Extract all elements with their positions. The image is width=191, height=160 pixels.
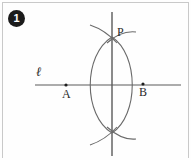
geometry-construction-figure: 1 ℓ A B P (0, 0, 191, 160)
label-point-p: P (117, 26, 124, 38)
label-point-a: A (62, 88, 71, 100)
arc-tail-top-left (90, 25, 117, 43)
label-point-b: B (139, 86, 147, 98)
arc-tail-bottom-left (90, 127, 117, 145)
label-line-l: ℓ (36, 65, 41, 78)
construction-drawing (0, 0, 191, 160)
